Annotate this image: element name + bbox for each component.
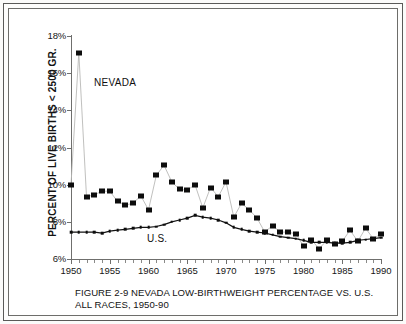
nevada-data-point: [363, 226, 369, 231]
nevada-data-point: [254, 216, 260, 221]
nevada-data-point: [316, 246, 322, 251]
us-data-point: [310, 241, 313, 244]
nevada-data-point: [177, 187, 183, 192]
nevada-data-point: [161, 163, 167, 168]
us-data-point: [70, 231, 73, 234]
us-data-point: [109, 230, 112, 233]
us-data-point: [248, 230, 251, 233]
figure-page: PERCENT OF LIVE BIRTHS < 2500 GR. 6%8%10…: [0, 0, 406, 324]
us-data-point: [240, 228, 243, 231]
us-data-point: [287, 236, 290, 239]
us-data-point: [349, 241, 352, 244]
nevada-data-point: [347, 228, 353, 233]
nevada-data-point: [138, 193, 144, 198]
us-data-point: [217, 219, 220, 222]
us-data-point: [302, 239, 305, 242]
nevada-data-point: [169, 179, 175, 184]
us-data-point: [85, 231, 88, 234]
us-data-point: [171, 221, 174, 224]
us-data-point: [93, 231, 96, 234]
nevada-data-point: [84, 194, 90, 199]
figure-caption: FIGURE 2-9 NEVADA LOW-BIRTHWEIGHT PERCEN…: [75, 287, 405, 310]
us-data-point: [132, 227, 135, 230]
series-connector-lines: [9, 9, 406, 324]
us-data-point: [116, 229, 119, 232]
us-data-point: [256, 231, 259, 234]
us-data-point: [372, 237, 375, 240]
us-data-point: [333, 242, 336, 245]
nevada-data-point: [68, 182, 74, 187]
us-data-point: [186, 217, 189, 220]
nevada-data-point: [223, 179, 229, 184]
nevada-data-point: [146, 207, 152, 212]
us-data-point: [202, 216, 205, 219]
nevada-data-point: [270, 223, 276, 228]
nevada-data-point: [239, 201, 245, 206]
us-data-point: [209, 217, 212, 220]
nevada-data-point: [122, 203, 128, 208]
us-data-point: [341, 242, 344, 245]
nevada-data-point: [184, 188, 190, 193]
nevada-data-point: [130, 201, 136, 206]
us-data-point: [380, 236, 383, 239]
caption-line-1: FIGURE 2-9 NEVADA LOW-BIRTHWEIGHT PERCEN…: [75, 287, 405, 299]
nevada-data-point: [115, 199, 121, 204]
us-data-point: [264, 232, 267, 235]
nevada-data-point: [277, 230, 283, 235]
us-data-point: [101, 232, 104, 235]
us-data-point: [295, 237, 298, 240]
us-data-point: [318, 241, 321, 244]
nevada-data-point: [293, 231, 299, 236]
nevada-data-point: [76, 50, 82, 55]
series-label-us: U.S.: [147, 233, 167, 244]
chart-plot-area: PERCENT OF LIVE BIRTHS < 2500 GR. 6%8%10…: [9, 9, 406, 324]
us-data-point: [155, 225, 158, 228]
us-data-point: [326, 241, 329, 244]
caption-line-2: ALL RACES, 1950-90: [75, 299, 405, 311]
us-data-point: [124, 228, 127, 231]
us-data-point: [364, 238, 367, 241]
us-data-point: [357, 239, 360, 242]
nevada-data-point: [246, 207, 252, 212]
nevada-data-point: [200, 205, 206, 210]
nevada-data-point: [215, 194, 221, 199]
us-data-point: [271, 234, 274, 237]
nevada-data-point: [208, 185, 214, 190]
us-data-point: [194, 214, 197, 217]
nevada-data-point: [107, 189, 113, 194]
nevada-data-point: [231, 215, 237, 220]
nevada-data-point: [99, 189, 105, 194]
us-data-point: [147, 226, 150, 229]
us-data-point: [233, 226, 236, 229]
us-data-point: [163, 223, 166, 226]
nevada-data-point: [301, 244, 307, 249]
page-border-inner: PERCENT OF LIVE BIRTHS < 2500 GR. 6%8%10…: [8, 8, 398, 316]
us-data-point: [279, 235, 282, 238]
us-data-point: [225, 222, 228, 225]
nevada-data-point: [153, 173, 159, 178]
us-data-point: [178, 219, 181, 222]
nevada-data-point: [91, 192, 97, 197]
us-data-point: [140, 226, 143, 229]
nevada-data-point: [192, 182, 198, 187]
us-data-point: [78, 231, 81, 234]
series-label-nevada: NEVADA: [94, 77, 136, 88]
nevada-data-point: [285, 230, 291, 235]
